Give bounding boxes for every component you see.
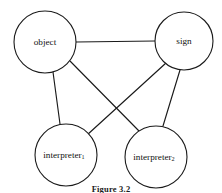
node-group: object sign interpreter1 interpreter2 — [14, 11, 213, 188]
edge-sign-interpreter2 — [163, 70, 180, 126]
edge-object-interpreter2 — [70, 61, 139, 131]
node-interpreter2-label-text: interpreter — [133, 152, 171, 162]
node-interpreter1[interactable]: interpreter1 — [35, 124, 97, 186]
edge-sign-interpreter1 — [87, 63, 166, 135]
node-object[interactable]: object — [14, 11, 76, 73]
figure-caption: Figure 3.2 — [0, 184, 222, 193]
node-sign[interactable]: sign — [155, 12, 213, 70]
node-interpreter2-label: interpreter2 — [133, 152, 174, 163]
semiotic-triangle-diagram: object sign interpreter1 interpreter2 Fi… — [0, 0, 222, 193]
node-interpreter2-label-subscript: 2 — [172, 156, 175, 163]
diagram-canvas: object sign interpreter1 interpreter2 — [0, 0, 222, 193]
edge-object-sign — [76, 41, 155, 42]
node-interpreter1-label-subscript: 1 — [82, 154, 85, 161]
node-sign-label: sign — [176, 36, 192, 46]
node-interpreter1-label: interpreter1 — [43, 150, 84, 161]
node-object-label: object — [34, 37, 57, 47]
edge-object-interpreter1 — [53, 72, 60, 124]
node-interpreter1-label-text: interpreter — [43, 150, 81, 160]
node-interpreter2[interactable]: interpreter2 — [125, 126, 187, 188]
